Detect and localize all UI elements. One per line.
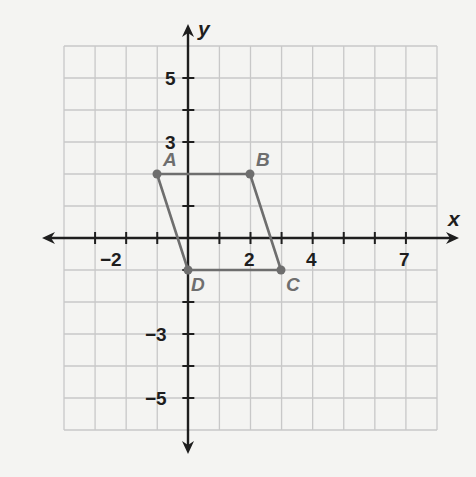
x-tick-label-2: 2 (244, 249, 255, 270)
x-tick-label-neg2: −2 (100, 249, 122, 270)
vertex-b-label: B (256, 149, 270, 170)
y-axis-label: y (197, 17, 211, 40)
vertex-b-point (246, 170, 255, 179)
y-tick-label-5: 5 (165, 68, 176, 89)
vertex-a-label: A (162, 149, 177, 170)
x-tick-label-7: 7 (399, 249, 410, 270)
x-tick-label-4: 4 (306, 249, 317, 270)
coordinate-plane: y x −2 2 4 7 5 3 −3 −5 A B C D (0, 0, 476, 477)
vertex-c-point (277, 266, 286, 275)
y-tick-label-neg5: −5 (145, 388, 167, 409)
y-tick-label-neg3: −3 (145, 324, 167, 345)
vertex-c-label: C (286, 274, 300, 295)
vertex-a-point (153, 170, 162, 179)
x-axis-label: x (447, 207, 461, 230)
graph-svg: y x −2 2 4 7 5 3 −3 −5 A B C D (0, 0, 476, 477)
vertex-d-label: D (191, 274, 205, 295)
